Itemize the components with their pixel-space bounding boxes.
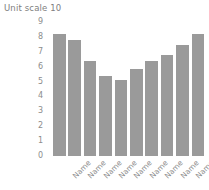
bar-slot: [115, 22, 128, 156]
y-axis-tick-label: 7: [38, 48, 43, 56]
plot-area: [52, 22, 206, 156]
y-axis-tick-label: 0: [38, 152, 43, 160]
bar-chart: Unit scale 10 9876543210 NameNameNameNam…: [0, 0, 209, 190]
y-axis-tick-label: 6: [38, 63, 43, 71]
y-axis-tick-label: 9: [38, 18, 43, 26]
chart-title: Unit scale 10: [4, 3, 61, 14]
bar: [115, 80, 128, 156]
bar: [84, 61, 97, 156]
bar-slot: [145, 22, 158, 156]
y-axis-tick-label: 5: [38, 78, 43, 86]
bar: [53, 34, 66, 156]
bar: [99, 76, 112, 156]
y-axis: 9876543210: [0, 22, 48, 156]
bar: [130, 69, 143, 156]
bar-slot: [176, 22, 189, 156]
bar: [192, 34, 205, 156]
bar-slot: [68, 22, 81, 156]
bar: [161, 55, 174, 156]
y-axis-tick-label: 8: [38, 33, 43, 41]
y-axis-tick-label: 1: [38, 137, 43, 145]
y-axis-tick-label: 3: [38, 107, 43, 115]
bar: [176, 45, 189, 156]
bar-slot: [130, 22, 143, 156]
y-axis-tick-label: 2: [38, 122, 43, 130]
bar-slot: [192, 22, 205, 156]
y-axis-tick-label: 4: [38, 92, 43, 100]
bar: [145, 61, 158, 156]
bar-slot: [161, 22, 174, 156]
bar: [68, 40, 81, 156]
bar-slot: [99, 22, 112, 156]
x-axis: NameNameNameNameNameNameNameNameNameName: [52, 157, 206, 190]
bar-slot: [84, 22, 97, 156]
bar-slot: [53, 22, 66, 156]
